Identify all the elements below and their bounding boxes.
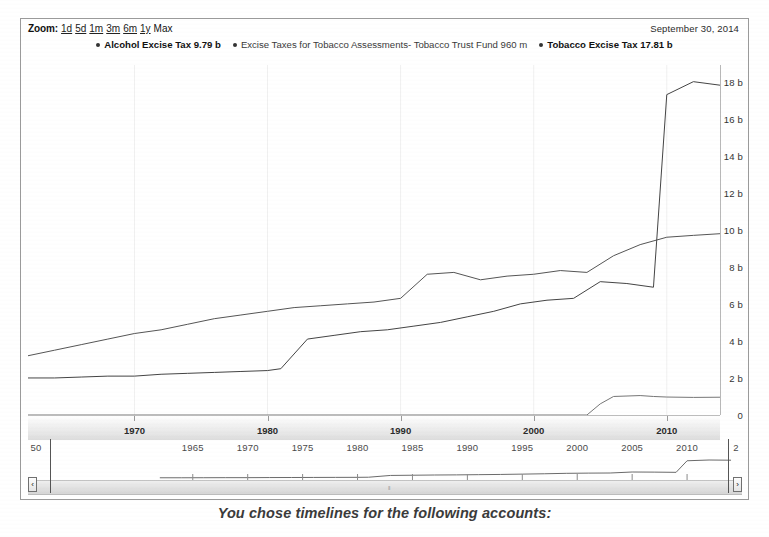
x-axis-tick-mark — [401, 416, 402, 421]
main-plot-area[interactable] — [28, 65, 720, 415]
y-axis-tick: 4 b — [729, 335, 743, 346]
navigator-sparkline — [28, 456, 742, 482]
legend-item-tobacco-trust-fund[interactable]: Excise Taxes for Tobacco Assessments- To… — [233, 39, 527, 50]
navigator-tick-label: 1980 — [347, 442, 369, 453]
y-axis-tick: 12 b — [724, 187, 743, 198]
navigator-grip-icon: ‖ — [388, 485, 391, 491]
x-axis-tick-label: 2010 — [656, 425, 677, 436]
zoom-range-selector[interactable]: Zoom:1d5d1m3m6m1yMax — [28, 23, 173, 35]
navigator-tick-label: 1965 — [182, 442, 204, 453]
y-axis-tick: 2 b — [729, 372, 743, 383]
navigator-tick-label: 2010 — [676, 442, 698, 453]
chart-toolbar: Zoom:1d5d1m3m6m1yMax September 30, 2014 — [21, 19, 748, 39]
zoom-range-1m[interactable]: 1m — [89, 23, 103, 34]
y-axis-tick: 0 — [738, 410, 743, 421]
zoom-range-max[interactable]: Max — [154, 23, 173, 34]
navigator-scroll-right-button[interactable]: › — [733, 477, 742, 492]
zoom-range-1y[interactable]: 1y — [140, 23, 151, 34]
navigator-axis-labels: 5019651970197519801985199019952000200520… — [28, 439, 742, 457]
legend-marker-icon — [539, 43, 543, 47]
y-axis-tick: 16 b — [724, 113, 743, 124]
zoom-label: Zoom: — [28, 23, 58, 34]
navigator-handle-left-line[interactable] — [50, 439, 51, 493]
y-axis-tick: 18 b — [724, 76, 743, 87]
series-line[interactable] — [28, 234, 720, 356]
x-axis-tick-mark — [134, 416, 135, 421]
navigator-series-line — [160, 460, 731, 478]
y-axis-tick: 10 b — [724, 224, 743, 235]
navigator-tick-label: 2005 — [621, 442, 643, 453]
legend-marker-icon — [233, 43, 237, 47]
x-axis-tick-mark — [268, 416, 269, 421]
zoom-range-1d[interactable]: 1d — [61, 23, 72, 34]
range-navigator[interactable]: 5019651970197519801985199019952000200520… — [28, 439, 742, 494]
navigator-tick-label: 1970 — [237, 442, 259, 453]
navigator-handle-right-line[interactable] — [728, 439, 729, 493]
legend-label: Tobacco Excise Tax 17.81 b — [547, 39, 673, 50]
x-axis-tick-label: 1970 — [124, 425, 145, 436]
navigator-tick-label: 1990 — [456, 442, 478, 453]
legend-label: Excise Taxes for Tobacco Assessments- To… — [241, 39, 527, 50]
x-axis-tick-mark — [534, 416, 535, 421]
series-line[interactable] — [28, 82, 720, 378]
zoom-range-6m[interactable]: 6m — [123, 23, 137, 34]
legend-item-alcohol-excise-tax[interactable]: Alcohol Excise Tax 9.79 b — [96, 39, 221, 50]
range-end-date: September 30, 2014 — [650, 23, 739, 34]
legend-item-tobacco-excise-tax[interactable]: Tobacco Excise Tax 17.81 b — [539, 39, 673, 50]
navigator-tick-label: 1975 — [292, 442, 314, 453]
zoom-range-3m[interactable]: 3m — [106, 23, 120, 34]
x-axis-tick-label: 2000 — [523, 425, 544, 436]
y-axis-tick: 14 b — [724, 150, 743, 161]
series-line[interactable] — [28, 396, 720, 415]
legend-marker-icon — [96, 43, 100, 47]
y-axis-line — [720, 65, 721, 415]
x-axis-tick-mark — [667, 416, 668, 421]
y-axis: 02 b4 b6 b8 b10 b12 b14 b16 b18 b — [720, 65, 749, 415]
chart-legend: Alcohol Excise Tax 9.79 bExcise Taxes fo… — [21, 39, 748, 55]
chart-frame: Zoom:1d5d1m3m6m1yMax September 30, 2014 … — [20, 18, 749, 500]
x-axis-tick-label: 1980 — [257, 425, 278, 436]
main-plot-svg — [28, 65, 720, 415]
navigator-tick-label: 2 — [733, 442, 738, 453]
zoom-range-5d[interactable]: 5d — [75, 23, 86, 34]
navigator-tick-label: 50 — [31, 442, 42, 453]
navigator-tick-label: 1995 — [511, 442, 533, 453]
navigator-tick-label: 1985 — [401, 442, 423, 453]
navigator-scroll-left-button[interactable]: ‹ — [28, 477, 37, 492]
y-axis-tick: 6 b — [729, 298, 743, 309]
x-axis: 19701980199020002010 — [28, 415, 720, 440]
navigator-scrollbar-track[interactable] — [28, 480, 742, 495]
navigator-tick-label: 2000 — [566, 442, 588, 453]
page-caption: You chose timelines for the following ac… — [0, 505, 769, 521]
x-axis-tick-label: 1990 — [390, 425, 411, 436]
legend-label: Alcohol Excise Tax 9.79 b — [104, 39, 221, 50]
y-axis-tick: 8 b — [729, 261, 743, 272]
